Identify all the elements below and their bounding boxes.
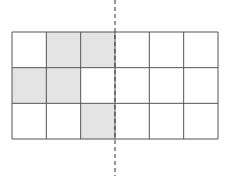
shaded-cell (81, 103, 115, 139)
shaded-cell (46, 32, 80, 68)
shaded-cell (46, 68, 80, 104)
shaded-cell (81, 32, 115, 68)
symmetry-grid-diagram (0, 0, 230, 183)
grid-cells (12, 32, 115, 139)
shaded-cell (12, 68, 46, 104)
